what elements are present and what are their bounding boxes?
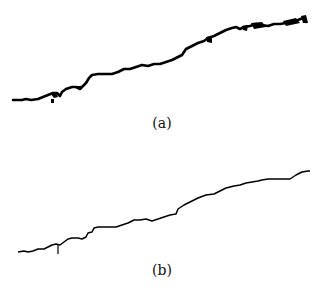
- panel-b: [0, 150, 324, 265]
- caption-a: (a): [0, 115, 324, 131]
- profile-curve-b: [0, 150, 324, 265]
- caption-b: (b): [0, 262, 324, 278]
